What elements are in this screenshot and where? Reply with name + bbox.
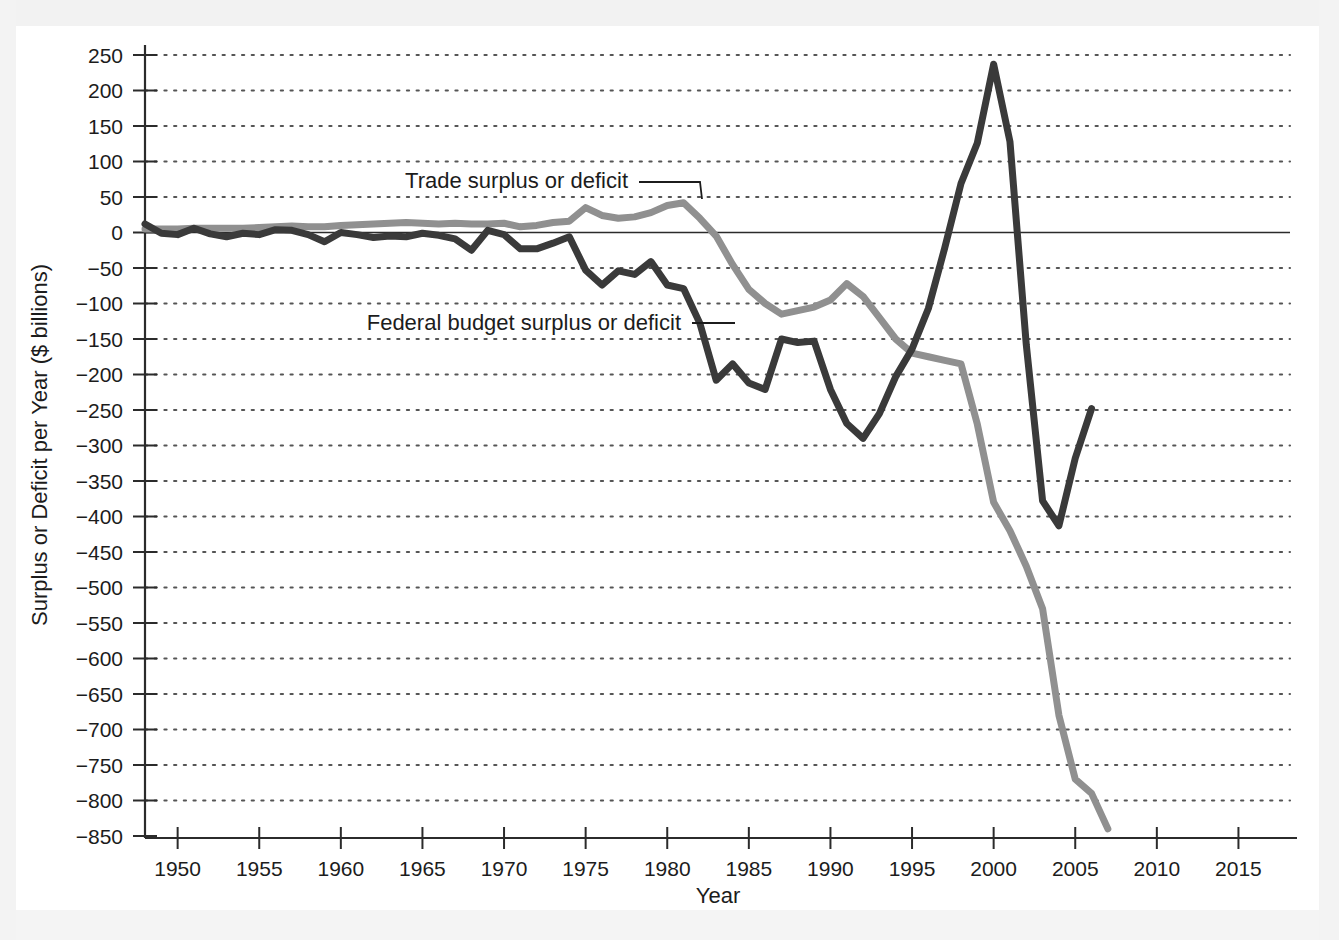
- y-tick-label: −500: [76, 576, 123, 599]
- x-tick-label: 1970: [481, 857, 528, 880]
- series-line-federal-budget-surplus-or-deficit: [145, 64, 1092, 525]
- y-tick-label: −350: [76, 470, 123, 493]
- x-tick-label: 1985: [725, 857, 772, 880]
- y-tick-label: 250: [88, 44, 123, 67]
- y-tick-label: −700: [76, 718, 123, 741]
- x-tick-label: 2015: [1215, 857, 1262, 880]
- x-tick-label: 2005: [1052, 857, 1099, 880]
- x-axis-tick-labels: 1950195519601965197019751980198519901995…: [154, 857, 1262, 880]
- y-tick-label: −200: [76, 363, 123, 386]
- x-tick-label: 1980: [644, 857, 691, 880]
- y-tick-label: 150: [88, 115, 123, 138]
- y-tick-label: −100: [76, 292, 123, 315]
- y-tick-label: 50: [100, 186, 123, 209]
- y-tick-label: −50: [87, 257, 123, 280]
- y-tick-label: −550: [76, 612, 123, 635]
- y-tick-label: −750: [76, 754, 123, 777]
- x-axis-title: Year: [696, 883, 740, 908]
- x-tick-label: 1960: [317, 857, 364, 880]
- y-axis-tick-labels: 250200150100500−50−100−150−200−250−300−3…: [76, 44, 123, 848]
- y-tick-label: −600: [76, 647, 123, 670]
- y-tick-label: −850: [76, 825, 123, 848]
- y-tick-label: 200: [88, 79, 123, 102]
- x-tick-label: 1955: [236, 857, 283, 880]
- line-chart: 250200150100500−50−100−150−200−250−300−3…: [0, 0, 1339, 940]
- x-tick-label: 1995: [889, 857, 936, 880]
- chart-figure: 250200150100500−50−100−150−200−250−300−3…: [0, 0, 1339, 940]
- x-tick-label: 2000: [970, 857, 1017, 880]
- y-tick-label: −300: [76, 434, 123, 457]
- series-line-trade-surplus-or-deficit: [145, 203, 1108, 829]
- y-tick-label: −450: [76, 541, 123, 564]
- y-tick-label: −400: [76, 505, 123, 528]
- y-tick-label: −650: [76, 683, 123, 706]
- y-tick-label: −150: [76, 328, 123, 351]
- y-tick-label: −250: [76, 399, 123, 422]
- y-tick-label: −800: [76, 789, 123, 812]
- x-tick-label: 1990: [807, 857, 854, 880]
- x-tick-label: 1975: [562, 857, 609, 880]
- y-axis-title: Surplus or Deficit per Year ($ billions): [27, 264, 52, 626]
- x-tick-label: 1950: [154, 857, 201, 880]
- gridlines: [145, 55, 1290, 801]
- annotation-trade-surplus-or-deficit: Trade surplus or deficit: [405, 168, 628, 193]
- x-tick-label: 1965: [399, 857, 446, 880]
- y-tick-label: 0: [111, 221, 123, 244]
- x-tick-label: 2010: [1133, 857, 1180, 880]
- y-tick-label: 100: [88, 150, 123, 173]
- annotation-federal-budget-surplus-or-deficit: Federal budget surplus or deficit: [367, 310, 681, 335]
